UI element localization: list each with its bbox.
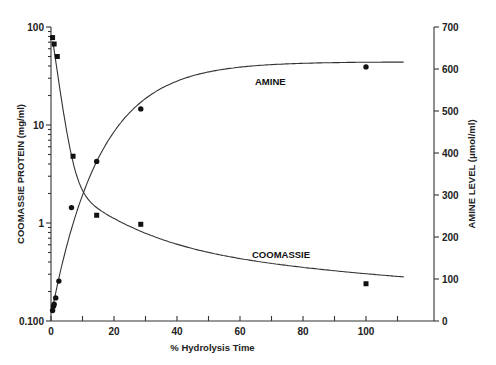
y-left-tick-label: 10 xyxy=(33,120,45,131)
amine-point xyxy=(53,295,58,300)
data-points xyxy=(50,35,369,313)
x-tick-label: 0 xyxy=(48,326,54,337)
y-right-tick-label: 200 xyxy=(442,232,459,243)
x-tick-label: 100 xyxy=(358,326,375,337)
coomassie-point xyxy=(71,154,76,159)
coomassie-curve xyxy=(53,41,404,277)
coomassie-point xyxy=(364,281,369,286)
amine-point xyxy=(56,278,61,283)
y-right-tick-label: 300 xyxy=(442,190,459,201)
y-left-tick-label: 0.100 xyxy=(19,316,44,327)
coomassie-label: COOMASSIE xyxy=(252,249,310,260)
x-tick-label: 20 xyxy=(108,326,120,337)
axes xyxy=(46,27,439,321)
coomassie-point xyxy=(138,222,143,227)
y-right-tick-label: 700 xyxy=(442,22,459,33)
y-left-tick-label: 100 xyxy=(27,22,44,33)
coomassie-point xyxy=(50,35,55,40)
coomassie-point xyxy=(52,42,57,47)
amine-point xyxy=(94,159,99,164)
amine-point xyxy=(51,302,56,307)
x-axis-title: % Hydrolysis Time xyxy=(170,342,254,353)
amine-point xyxy=(69,205,74,210)
coomassie-point xyxy=(55,54,60,59)
x-tick-label: 80 xyxy=(297,326,309,337)
y-left-axis-title: COOMASSIE PROTEIN (mg/ml) xyxy=(15,104,26,244)
x-tick-label: 60 xyxy=(234,326,246,337)
y-left-tick-label: 1 xyxy=(38,218,44,229)
x-tick-label: 40 xyxy=(171,326,183,337)
y-right-axis-title: AMINE LEVEL (μmol/ml) xyxy=(466,119,477,228)
coomassie-point xyxy=(94,213,99,218)
amine-point xyxy=(138,106,143,111)
y-right-tick-label: 100 xyxy=(442,274,459,285)
amine-point xyxy=(363,64,368,69)
amine-label: AMINE xyxy=(255,76,286,87)
fit-curves xyxy=(52,41,404,311)
y-right-tick-label: 400 xyxy=(442,148,459,159)
hydrolysis-chart: 0204060801000.10011010001002003004005006… xyxy=(0,0,496,365)
y-right-tick-label: 500 xyxy=(442,106,459,117)
y-right-tick-label: 0 xyxy=(442,316,448,327)
labels: 0204060801000.10011010001002003004005006… xyxy=(15,22,477,354)
amine-curve xyxy=(52,62,404,311)
y-right-tick-label: 600 xyxy=(442,64,459,75)
